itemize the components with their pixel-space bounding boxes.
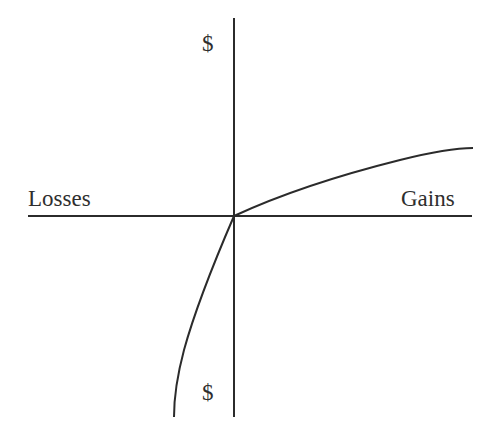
dollar-negative-label: $: [202, 381, 214, 404]
diagram-svg: [0, 0, 502, 442]
losses-label: Losses: [28, 187, 91, 210]
value-function-diagram: Losses Gains $ $: [0, 0, 502, 442]
gains-label: Gains: [401, 187, 455, 210]
dollar-positive-label: $: [202, 32, 214, 55]
